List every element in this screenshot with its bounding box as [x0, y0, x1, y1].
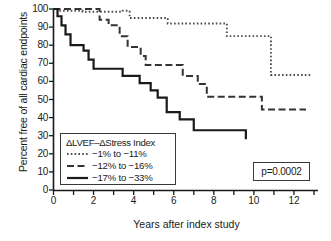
x-tick-label: 0 [42, 196, 66, 206]
x-axis-title: Years after index study [53, 218, 320, 230]
x-tick-label: 6 [162, 196, 186, 206]
x-tick-label: 12 [282, 196, 306, 206]
legend-label: −17% to −33% [90, 172, 153, 184]
legend-swatch-dotted-icon [66, 148, 90, 160]
legend-swatch-dashed-icon [66, 160, 90, 172]
p-value-box: p=0.0002 [253, 162, 310, 181]
p-value-text: p=0.0002 [261, 166, 301, 177]
x-tick-label: 4 [122, 196, 146, 206]
x-tick-label: 2 [82, 196, 106, 206]
x-tick-label: 10 [242, 196, 266, 206]
x-tick-label: 8 [202, 196, 226, 206]
legend: ΔLVEF–ΔStress Index −1% to −11%−12% to −… [60, 133, 176, 185]
legend-item: −1% to −11% [66, 148, 171, 160]
survival-curves [54, 9, 311, 139]
kaplan-meier-chart: Percent free of all cardiac endpoints 01… [0, 0, 331, 241]
x-axis-tick-labels: 024681012 [0, 196, 331, 210]
legend-title: ΔLVEF–ΔStress Index [66, 137, 171, 148]
legend-swatch-solid-icon [66, 172, 90, 184]
legend-item: −12% to −16% [66, 160, 171, 172]
legend-label: −1% to −11% [90, 148, 147, 160]
legend-item: −17% to −33% [66, 172, 171, 184]
legend-rows: −1% to −11%−12% to −16%−17% to −33% [66, 148, 171, 184]
legend-label: −12% to −16% [90, 160, 153, 172]
survival-curve-solid [54, 9, 246, 139]
